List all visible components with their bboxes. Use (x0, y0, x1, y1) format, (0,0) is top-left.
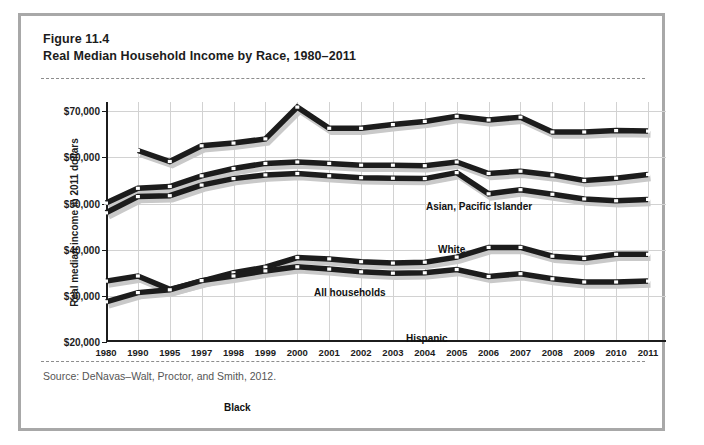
x-tick-label: 2002 (350, 347, 371, 358)
x-tick-label: 2008 (542, 347, 563, 358)
data-point-marker (391, 177, 395, 180)
data-point-marker (327, 268, 331, 271)
data-point-marker (359, 164, 363, 167)
x-tick-label: 1999 (255, 347, 276, 358)
data-point-marker (550, 193, 554, 196)
data-point-marker (582, 179, 586, 182)
data-point-marker (136, 291, 140, 294)
x-tick-label: 1990 (127, 347, 148, 358)
x-tick-label: 2003 (382, 347, 403, 358)
data-point-marker (423, 120, 427, 123)
series-line (138, 107, 648, 161)
divider-top (41, 78, 645, 79)
data-point-marker (136, 195, 140, 198)
x-tick-label: 1997 (191, 347, 212, 358)
data-point-marker (168, 160, 172, 163)
x-tick-label: 2007 (510, 347, 531, 358)
data-point-marker (391, 262, 395, 265)
figure-frame: Figure 11.4 Real Median Household Income… (18, 13, 665, 431)
data-point-marker (168, 288, 172, 291)
data-point-marker (487, 275, 491, 278)
figure-title: Real Median Household Income by Race, 19… (43, 49, 356, 63)
series-shadow (140, 111, 650, 165)
data-point-marker (295, 172, 299, 175)
x-tick-label: 2000 (287, 347, 308, 358)
data-point-marker (263, 173, 267, 176)
data-point-marker (646, 253, 650, 256)
series-label-all-households: All households (314, 287, 386, 298)
x-tick-label: 1998 (223, 347, 244, 358)
data-point-marker (232, 167, 236, 170)
data-point-marker (327, 174, 331, 177)
data-point-marker (136, 149, 140, 152)
x-tick-label: 1995 (159, 347, 180, 358)
x-tick-label: 2001 (319, 347, 340, 358)
data-point-marker (104, 280, 108, 283)
data-point-marker (646, 198, 650, 201)
x-tick-label: 2011 (638, 347, 659, 358)
data-point-marker (327, 162, 331, 165)
series-lines (106, 102, 686, 346)
data-point-marker (519, 116, 523, 119)
data-point-marker (359, 270, 363, 273)
plot-area: $20,000$30,000$40,000$50,000$60,000$70,0… (106, 102, 666, 342)
data-point-marker (455, 256, 459, 259)
data-point-marker (455, 160, 459, 163)
x-tick-label: 2005 (446, 347, 467, 358)
data-point-marker (232, 274, 236, 277)
data-point-marker (455, 115, 459, 118)
y-tick-label: $30,000 (64, 290, 100, 301)
y-tick-label: $40,000 (64, 244, 100, 255)
data-point-marker (359, 127, 363, 130)
data-point-marker (582, 197, 586, 200)
data-point-marker (487, 172, 491, 175)
data-point-marker (646, 173, 650, 176)
data-point-marker (263, 269, 267, 272)
data-point-marker (295, 106, 299, 109)
data-point-marker (550, 255, 554, 258)
data-point-marker (455, 268, 459, 271)
data-point-marker (391, 123, 395, 126)
data-point-marker (614, 280, 618, 283)
data-point-marker (614, 177, 618, 180)
y-axis-title: Real median income in 2011 dollars (67, 102, 81, 342)
data-point-marker (550, 173, 554, 176)
series-label-hispanic: Hispanic (406, 333, 448, 344)
data-point-marker (168, 194, 172, 197)
data-point-marker (646, 280, 650, 283)
data-point-marker (646, 130, 650, 133)
x-tick-label: 2004 (414, 347, 435, 358)
data-point-marker (136, 187, 140, 190)
data-point-marker (487, 246, 491, 249)
data-point-marker (582, 130, 586, 133)
series-label-white: White (438, 244, 465, 255)
source-note: Source: DeNavas–Walt, Proctor, and Smith… (43, 370, 276, 382)
x-tick-label: 2010 (606, 347, 627, 358)
data-point-marker (232, 142, 236, 145)
data-point-marker (136, 274, 140, 277)
data-point-marker (295, 256, 299, 259)
data-point-marker (104, 211, 108, 214)
data-point-marker (391, 164, 395, 167)
data-point-marker (295, 265, 299, 268)
data-point-marker (582, 257, 586, 260)
data-point-marker (423, 177, 427, 180)
data-point-marker (455, 171, 459, 174)
data-point-marker (168, 185, 172, 188)
data-point-marker (200, 184, 204, 187)
data-point-marker (519, 170, 523, 173)
data-point-marker (423, 261, 427, 264)
y-tick-label: $70,000 (64, 106, 100, 117)
data-point-marker (327, 257, 331, 260)
data-point-marker (327, 127, 331, 130)
data-point-marker (232, 177, 236, 180)
data-point-marker (104, 202, 108, 205)
data-point-marker (519, 188, 523, 191)
data-point-marker (550, 277, 554, 280)
series-label-black: Black (224, 402, 251, 413)
series-label-asian-pacific-islander: Asian, Pacific Islander (426, 201, 532, 212)
data-point-marker (104, 300, 108, 303)
data-point-marker (263, 162, 267, 165)
data-point-marker (263, 137, 267, 140)
data-point-marker (359, 260, 363, 263)
